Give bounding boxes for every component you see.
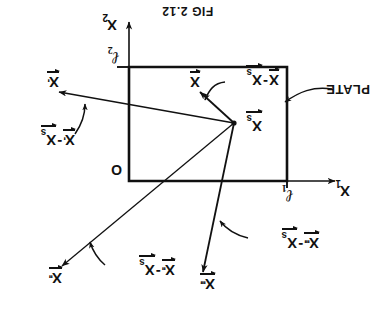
diff-xppp-xs-left: X''' (304, 232, 319, 251)
diff-xpp-xs-left: X'' (162, 259, 175, 278)
axis-x1-subscript: 1 (335, 178, 341, 189)
dim-l1-label: ℓ1 (281, 184, 293, 204)
diff-xpp-xs-right: Xs (139, 255, 155, 278)
vector-x-double-prime-marks: '' (50, 268, 53, 280)
axis-x1-letter: X (340, 183, 350, 200)
vector-x-letter: X (190, 75, 200, 90)
diff-xp-xs-left: X' (63, 129, 75, 148)
diff-xp-xs-left-letter: X (65, 133, 75, 148)
annotation-diff-xppp-xs: X'''-Xs (282, 228, 319, 251)
annotation-diff-xp-xs: X'-Xs (41, 125, 75, 148)
axis-x2-letter: X (107, 17, 117, 34)
diff-xpp-xs-right-letter: X (145, 263, 155, 278)
vector-xs-label: Xs (246, 111, 262, 134)
vector-x-prime-letter: X (49, 75, 59, 90)
vector-x-triple-prime-marks: ''' (201, 274, 206, 286)
diff-xppp-xs-right-letter: X (287, 236, 297, 251)
diff-xp-xs-minus: - (56, 135, 63, 150)
diff-xppp-xs-minus: - (297, 238, 304, 253)
plate-label: PLATE (326, 83, 370, 96)
vector-x-double-prime-label: X'' (49, 267, 62, 286)
diagram-canvas: X1 ℓ1 X2 ℓ2 O PLATE Xs X (0, 0, 375, 314)
diff-xppp-xs-left-marks: ''' (305, 233, 310, 245)
vector-x-triple-prime-label: X''' (200, 273, 215, 292)
plate-text: PLATE (326, 82, 370, 97)
axis-x2-label: X2 (101, 14, 117, 33)
origin-letter: O (111, 162, 122, 178)
diff-xp-xs-right-subscript: s (41, 127, 47, 138)
diff-xp-xs-left-marks: ' (64, 130, 66, 142)
diff-x-xs-right: Xs (246, 65, 262, 88)
vector-x-prime-label: X' (47, 71, 59, 90)
dim-l2-subscript: 2 (108, 45, 113, 56)
vector-x-prime: X' (47, 71, 59, 90)
vector-xs-letter: X (252, 119, 262, 134)
diff-xppp-xs-left-letter: X (309, 236, 319, 251)
diff-xp-xs-right-letter: X (46, 133, 56, 148)
diff-x-xs-minus: - (262, 75, 269, 90)
axis-x1-label: X1 (334, 180, 350, 199)
axis-x2-subscript: 2 (102, 12, 108, 23)
diff-x-xs-left: X (269, 69, 279, 88)
leader-diff-x-xs (205, 82, 225, 100)
diff-xpp-xs-minus: - (155, 265, 162, 280)
diff-xppp-xs-right-subscript: s (282, 230, 288, 241)
diff-x-xs-right-letter: X (252, 73, 262, 88)
diff-xppp-xs-right: Xs (282, 228, 298, 251)
dim-l2-label: ℓ2 (107, 46, 119, 66)
vector-x-double-prime: X'' (49, 267, 62, 286)
diff-x-xs-right-subscript: s (246, 67, 252, 78)
vector-xs-subscript: s (246, 113, 252, 124)
leader-diff-xp-xs (75, 104, 85, 134)
diff-xpp-xs-left-letter: X (165, 263, 175, 278)
origin-label: O (111, 163, 122, 177)
annotation-diff-x-xs: X-Xs (246, 65, 279, 88)
vector-x-prime-marks: ' (48, 72, 50, 84)
vector-x-double-prime-letter: X (52, 271, 62, 286)
vector-x-triple-prime-letter: X (205, 277, 215, 292)
figure-container: FIG 2.12 (0, 0, 375, 314)
diff-xp-xs-right: Xs (41, 125, 57, 148)
diff-x-xs-left-letter: X (269, 73, 279, 88)
annotation-diff-xpp-xs: X''-Xs (139, 255, 175, 278)
vector-x-triple-prime: X''' (200, 273, 215, 292)
vector-xs: Xs (246, 111, 262, 134)
diff-xpp-xs-left-marks: '' (163, 260, 166, 272)
leader-diff-xppp-xs (220, 221, 248, 238)
dim-l1-subscript: 1 (282, 183, 287, 194)
vector-x: X (190, 71, 200, 90)
diff-xpp-xs-right-subscript: s (139, 257, 145, 268)
vector-x-label: X (190, 71, 200, 90)
leader-diff-xpp-xs (90, 242, 105, 265)
